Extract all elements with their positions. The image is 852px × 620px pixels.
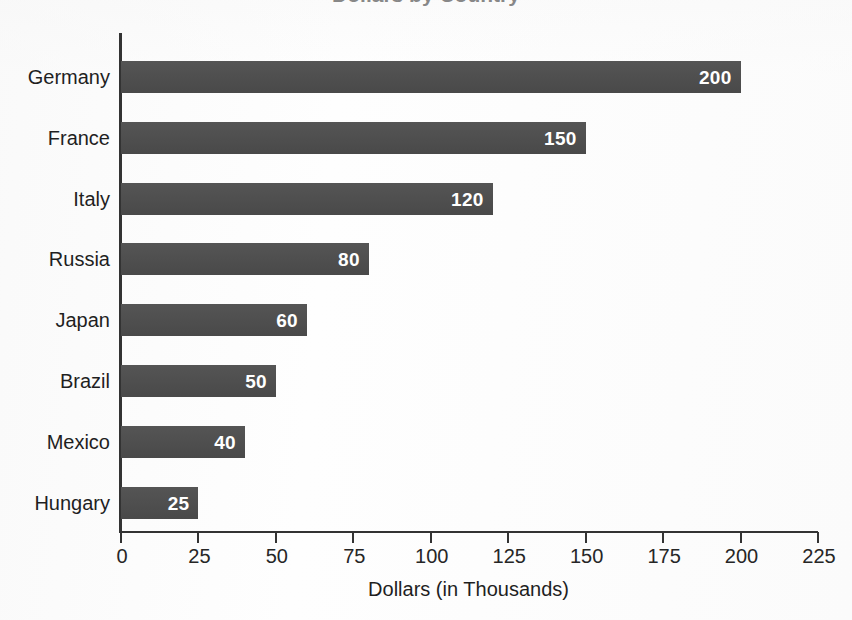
x-axis-tick-label: 75 (324, 545, 384, 568)
x-axis-tick-label: 125 (479, 545, 539, 568)
bar: 120 (121, 183, 493, 215)
category-label: France (4, 128, 110, 148)
bar-value-label: 25 (168, 493, 190, 512)
bar: 50 (121, 365, 276, 397)
bar-value-label: 80 (338, 250, 360, 269)
category-label: Japan (4, 310, 110, 330)
x-axis-tick-label: 150 (557, 545, 617, 568)
x-axis-tick (120, 532, 122, 543)
x-axis-tick (507, 532, 509, 543)
bar: 60 (121, 304, 307, 336)
y-axis-line (119, 33, 122, 533)
chart-page: Dollars by Country 025507510012515017520… (0, 0, 852, 620)
category-label: Hungary (4, 493, 110, 513)
x-axis-title: Dollars (in Thousands) (119, 578, 818, 601)
x-axis-tick (430, 532, 432, 543)
bar-value-label: 150 (544, 128, 577, 147)
bar-value-label: 60 (276, 311, 298, 330)
category-label: Russia (4, 249, 110, 269)
x-axis-tick (197, 532, 199, 543)
bar-value-label: 200 (699, 68, 732, 87)
plot-area: 0255075100125150175200225200Germany150Fr… (0, 0, 852, 620)
x-axis-tick (662, 532, 664, 543)
x-axis-tick-label: 225 (789, 545, 849, 568)
category-label: Germany (4, 67, 110, 87)
x-axis-tick (275, 532, 277, 543)
x-axis-tick-label: 175 (634, 545, 694, 568)
x-axis-tick-label: 25 (169, 545, 229, 568)
bar: 80 (121, 243, 369, 275)
bar: 40 (121, 426, 245, 458)
bar: 200 (121, 61, 741, 93)
bar-value-label: 50 (245, 372, 267, 391)
bar-value-label: 40 (214, 432, 236, 451)
x-axis-tick-label: 100 (402, 545, 462, 568)
x-axis-tick-label: 50 (247, 545, 307, 568)
x-axis-line (119, 531, 818, 533)
x-axis-tick (817, 532, 819, 543)
bar: 25 (121, 487, 198, 519)
bar: 150 (121, 122, 586, 154)
x-axis-tick (740, 532, 742, 543)
x-axis-tick-label: 0 (92, 545, 152, 568)
x-axis-tick-label: 200 (712, 545, 772, 568)
x-axis-tick (585, 532, 587, 543)
category-label: Mexico (4, 432, 110, 452)
x-axis-tick (352, 532, 354, 543)
category-label: Brazil (4, 371, 110, 391)
bar-value-label: 120 (451, 189, 484, 208)
category-label: Italy (4, 189, 110, 209)
